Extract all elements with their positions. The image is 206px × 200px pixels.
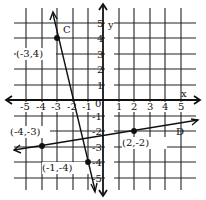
y-tick: 5 (97, 18, 103, 29)
x-tick: -4 (36, 101, 46, 112)
point-label: (-4,-3) (10, 126, 41, 137)
point-label: (2,-2) (122, 137, 149, 148)
point-neg1-neg4 (86, 160, 90, 164)
y-tick: 1 (97, 80, 103, 91)
x-tick: -5 (20, 101, 30, 112)
x-axis-label: x (181, 88, 187, 99)
x-tick: 5 (178, 101, 184, 112)
y-tick: -1 (92, 111, 102, 122)
origin-label: 0 (95, 98, 101, 109)
point-label: (-3,4) (16, 48, 43, 59)
y-tick: 4 (97, 33, 103, 44)
x-tick: 2 (131, 101, 137, 112)
y-tick: -3 (92, 142, 102, 153)
line-c-label: C (63, 24, 71, 35)
x-tick: 3 (147, 101, 153, 112)
point-label: (-1,-4) (42, 162, 73, 173)
coordinate-graph: -5 -4 -3 -2 -1 0 1 2 3 4 5 5 4 3 2 1 -1 … (0, 0, 206, 200)
x-tick: 1 (116, 101, 122, 112)
y-tick: 2 (97, 64, 103, 75)
x-tick: 4 (162, 101, 168, 112)
y-tick: 3 (97, 49, 103, 60)
line-d-arrow-icon (191, 119, 198, 125)
line-d-label: D (176, 126, 184, 137)
x-tick: -1 (82, 101, 92, 112)
y-axis-label: y (107, 19, 114, 30)
point-2-neg2 (132, 129, 136, 133)
point-neg4-neg3 (40, 144, 44, 148)
y-tick: -4 (92, 157, 102, 168)
point-neg3-4 (55, 36, 59, 40)
x-tick: -3 (51, 101, 61, 112)
